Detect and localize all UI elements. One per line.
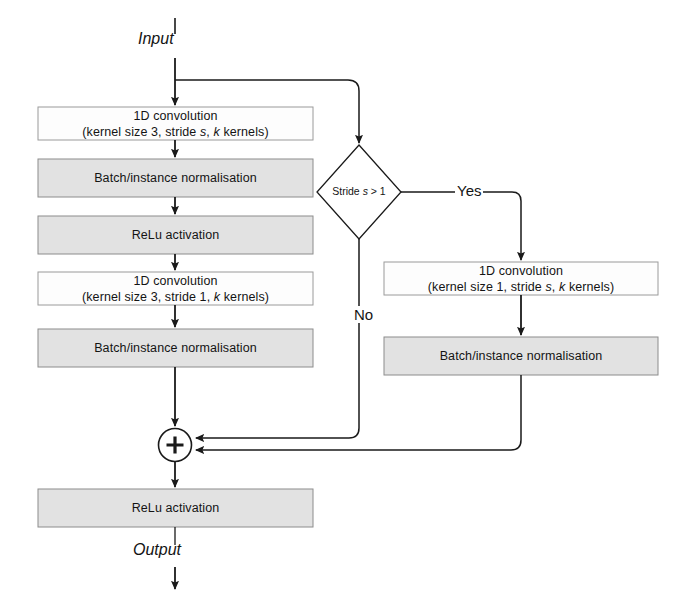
flowchart-canvas: Input Output 1D convolution (kernel size… <box>0 0 691 604</box>
input-label: Input <box>138 30 174 48</box>
output-label: Output <box>133 541 181 559</box>
branch-label-no: No <box>352 306 375 323</box>
node-box-relu2 <box>38 489 313 527</box>
node-box-relu1 <box>38 216 313 254</box>
node-box-norm-shortcut <box>384 337 658 375</box>
node-box-norm2 <box>38 329 313 367</box>
node-box-conv-shortcut <box>384 262 658 295</box>
branch-label-yes: Yes <box>455 182 483 199</box>
decision-label-stride: Stride s > 1 <box>319 185 399 197</box>
flowchart-vector-layer <box>0 0 691 604</box>
edge-decision-yes-to-conv-shortcut <box>401 192 521 260</box>
node-box-norm1 <box>38 159 313 197</box>
node-box-conv1 <box>38 107 313 140</box>
node-box-conv2 <box>38 272 313 305</box>
